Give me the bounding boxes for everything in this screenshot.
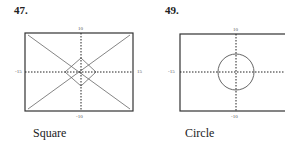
ymax-label: 10 (78, 26, 83, 31)
graphs (0, 0, 285, 142)
graph-circle (180, 34, 285, 111)
caption-square: Square (33, 126, 66, 141)
xmin-label: -15 (15, 69, 22, 74)
ymin-label: -10 (76, 114, 83, 119)
ymax-label: 10 (233, 27, 238, 32)
caption-circle: Circle (185, 126, 214, 141)
xmin-label: -15 (168, 69, 175, 74)
graph-square (25, 33, 133, 111)
xmax-label: 15 (137, 69, 142, 74)
ymin-label: -10 (231, 114, 238, 119)
